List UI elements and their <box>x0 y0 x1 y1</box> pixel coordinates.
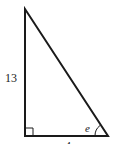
angle-label: e <box>85 122 90 134</box>
triangle-shape <box>25 9 108 136</box>
vertical-side-label: 13 <box>5 71 17 85</box>
right-triangle-diagram: 13 e 4 <box>0 0 115 144</box>
angle-arc <box>95 126 100 137</box>
right-angle-marker <box>25 128 33 136</box>
horizontal-side-label: 4 <box>65 139 71 144</box>
